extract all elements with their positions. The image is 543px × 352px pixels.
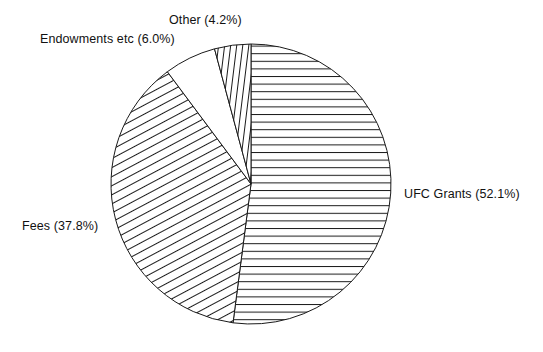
pie-chart-figure: Other (4.2%) Endowments etc (6.0%) UFC G…	[0, 0, 543, 352]
slice-label-endowments-etc: Endowments etc (6.0%)	[40, 32, 175, 47]
slice-label-fees: Fees (37.8%)	[22, 219, 98, 234]
pie-chart-svg	[0, 0, 543, 352]
pie-slices-group	[111, 44, 391, 324]
pie-slice-ufc-grants	[233, 44, 391, 324]
slice-label-ufc-grants: UFC Grants (52.1%)	[404, 187, 520, 202]
slice-label-other: Other (4.2%)	[169, 13, 242, 28]
